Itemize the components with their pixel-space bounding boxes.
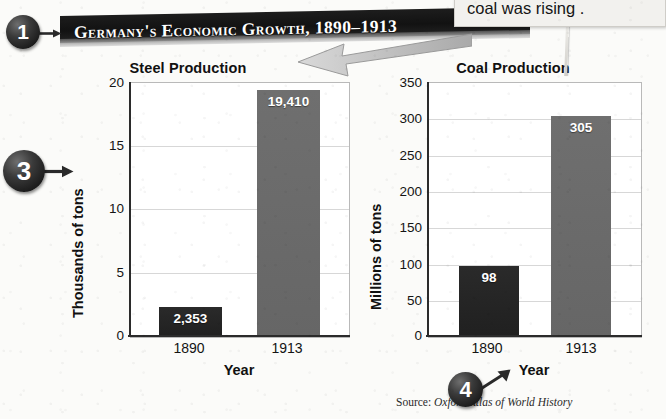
callout-badge-4-number: 4 [448,372,483,407]
callout-arrow-1-icon [38,29,62,38]
callout-note-box: coal was rising . [454,0,666,27]
bar-coal-1890: 98 [459,266,519,337]
chart-coal-xtick: 1913 [522,340,640,356]
chart-steel-ytick: 10 [82,201,124,216]
bar-steel-1890: 2,353 [159,307,222,337]
callout-note-text: coal was rising . [467,0,584,18]
chart-coal-ytick: 300 [372,111,422,126]
chart-steel-x-axis [128,335,350,337]
chart-steel-y-axis [129,82,131,337]
callout-badge-1[interactable]: 1 [6,15,40,49]
bar-steel-1890-value: 2,353 [159,311,222,326]
chart-coal-plot-area: 98 305 [428,82,642,338]
chart-coal-ytick: 250 [372,148,422,163]
bar-steel-1913-value: 19,410 [257,94,320,109]
chart-steel-ytick: 20 [82,75,124,90]
callout-pointer-arrow-icon [286,30,472,80]
callout-badge-1-number: 1 [6,15,40,49]
source-credit: Source: Oxford Atlas of World History [396,396,572,408]
chart-steel-ytick: 0 [82,328,124,343]
chart-coal-y-axis-title: Millions of tons [368,204,384,310]
chart-steel-title: Steel Production [70,60,306,76]
callout-badge-4[interactable]: 4 [448,372,483,407]
bar-coal-1913-value: 305 [551,120,611,135]
chart-coal-ytick: 0 [372,328,422,343]
callout-arrow-3-icon [42,165,74,178]
chart-steel-x-axis-title: Year [130,362,348,378]
chart-steel-xtick: 1913 [228,340,346,356]
chart-steel-plot-area: 2,353 19,410 [130,82,350,338]
chart-coal-x-axis [426,335,642,337]
bar-coal-1913: 305 [551,116,611,337]
callout-badge-3-number: 3 [3,150,45,192]
chart-coal-production: Coal Production 98 305 350 300 250 200 1… [366,60,652,405]
chart-coal-y-axis [427,82,429,337]
chart-steel-ytick: 5 [82,265,124,280]
bar-steel-1913: 19,410 [257,90,320,337]
chart-steel-y-axis-title: Thousands of tons [70,188,86,318]
source-credit-prefix: Source: [396,396,434,408]
callout-arrow-4-icon [478,368,512,392]
chart-coal-ytick: 200 [372,184,422,199]
chart-steel-production: Steel Production 2,353 19,410 20 15 10 5… [62,60,362,405]
callout-badge-3[interactable]: 3 [3,150,45,192]
bar-coal-1890-value: 98 [459,270,519,285]
chart-steel-ytick: 15 [82,138,124,153]
